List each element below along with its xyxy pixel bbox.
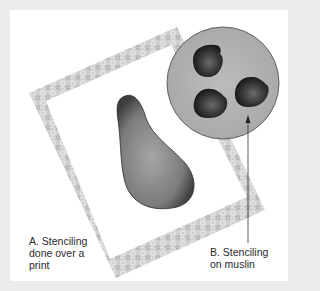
caption-b-line-1: B. Stenciling — [210, 246, 268, 258]
caption-a-line-2: done over a — [29, 247, 87, 259]
caption-a: A. Stenciling done over a print — [29, 235, 87, 271]
muslin-circle — [167, 27, 279, 139]
caption-b: B. Stenciling on muslin — [210, 246, 268, 270]
stencil-blob-1 — [193, 45, 223, 77]
caption-b-line-2: on muslin — [210, 258, 268, 270]
caption-a-line-1: A. Stenciling — [29, 235, 87, 247]
caption-a-line-3: print — [29, 259, 87, 271]
